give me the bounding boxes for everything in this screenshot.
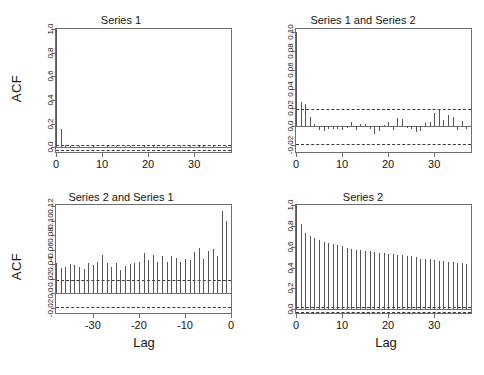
- acf-bar: [208, 251, 209, 294]
- acf-bar: [162, 147, 163, 148]
- acf-bar: [97, 147, 98, 148]
- acf-bar: [199, 146, 200, 147]
- panel-series1-acf: Series 1 ACF 01020300.00.20.40.60.81.0: [0, 0, 242, 188]
- acf-bar: [402, 255, 403, 309]
- x-tick-mark: [139, 314, 140, 318]
- acf-bar: [319, 240, 320, 310]
- x-axis-title-series2-series1: Lag: [133, 336, 155, 349]
- x-tick-label: 30: [428, 159, 440, 170]
- acf-bar: [84, 269, 85, 293]
- acf-bar: [301, 224, 302, 309]
- acf-bar: [374, 126, 375, 134]
- acf-bar: [434, 260, 435, 310]
- confidence-band-lower: [56, 150, 231, 151]
- acf-bar: [439, 261, 440, 310]
- acf-bar: [111, 267, 112, 293]
- confidence-band-upper: [296, 109, 471, 110]
- acf-bar: [74, 147, 75, 148]
- acf-bar: [70, 146, 71, 147]
- acf-bar: [370, 126, 371, 129]
- acf-bar: [176, 147, 177, 148]
- panel-title-series2-series1: Series 2 and Series 1: [0, 191, 242, 203]
- acf-bar: [425, 259, 426, 309]
- acf-bar: [203, 259, 204, 294]
- acf-bar: [420, 259, 421, 309]
- acf-bar: [319, 126, 320, 129]
- acf-bar: [226, 221, 227, 294]
- acf-bar: [208, 147, 209, 148]
- acf-bar: [337, 126, 338, 129]
- acf-bar: [471, 126, 472, 127]
- acf-bar: [102, 255, 103, 293]
- panel-title-series1: Series 1: [0, 14, 242, 26]
- plot-area-series1: [55, 28, 232, 153]
- acf-bar: [388, 122, 389, 126]
- acf-bar: [324, 126, 325, 131]
- plot-area-series2: [295, 204, 472, 314]
- acf-bar: [65, 267, 66, 293]
- acf-bar: [407, 126, 408, 128]
- acf-bar: [393, 254, 394, 309]
- acf-bar: [388, 254, 389, 310]
- acf-bar: [296, 205, 297, 309]
- acf-bar: [93, 146, 94, 147]
- y-tick-label: 0.08: [287, 40, 295, 62]
- acf-bar: [314, 124, 315, 126]
- acf-bar: [411, 126, 412, 128]
- acf-bar: [397, 255, 398, 309]
- y-tick-label: 0.8: [47, 42, 55, 64]
- acf-bar: [116, 146, 117, 147]
- acf-bar: [139, 262, 140, 293]
- x-tick-label: 20: [382, 320, 394, 331]
- x-axis-title-series2: Lag: [375, 336, 397, 349]
- acf-bar: [457, 126, 458, 130]
- acf-bar: [144, 253, 145, 294]
- acf-bar: [190, 146, 191, 147]
- acf-bar: [333, 126, 334, 129]
- acf-bar: [65, 145, 66, 147]
- acf-bar: [310, 117, 311, 126]
- acf-bar: [402, 119, 403, 126]
- acf-bar: [88, 147, 89, 148]
- acf-bar: [328, 243, 329, 310]
- acf-bar: [360, 250, 361, 309]
- acf-bar: [157, 147, 158, 148]
- acf-bar: [222, 147, 223, 148]
- acf-bar: [157, 262, 158, 293]
- y-tick-label: 0.2: [287, 277, 295, 299]
- x-tick-label: 0: [53, 159, 59, 170]
- acf-bar: [384, 253, 385, 309]
- x-tick-mark: [102, 153, 103, 157]
- acf-bar: [310, 236, 311, 309]
- acf-bar: [430, 259, 431, 309]
- panel-title-series2: Series 2: [242, 191, 484, 203]
- acf-bar: [61, 129, 62, 147]
- x-tick-label: 10: [96, 159, 108, 170]
- acf-bar: [88, 263, 89, 294]
- x-tick-mark: [231, 314, 232, 318]
- acf-bar: [167, 262, 168, 293]
- acf-bar: [462, 121, 463, 127]
- acf-bar: [107, 146, 108, 147]
- acf-bar: [194, 147, 195, 148]
- acf-bar: [471, 264, 472, 309]
- acf-bar: [222, 211, 223, 294]
- acf-bar: [180, 146, 181, 147]
- acf-bar: [466, 264, 467, 310]
- acf-bar: [379, 126, 380, 130]
- acf-bar: [305, 233, 306, 309]
- acf-bar: [70, 264, 71, 293]
- zero-baseline: [56, 147, 231, 148]
- acf-bar: [416, 257, 417, 309]
- acf-bar: [231, 147, 232, 148]
- acf-bar: [217, 147, 218, 148]
- acf-bar: [453, 262, 454, 309]
- acf-bar: [125, 266, 126, 293]
- x-tick-mark: [56, 153, 57, 157]
- acf-bar: [443, 261, 444, 309]
- acf-bar: [430, 122, 431, 126]
- acf-bar: [347, 248, 348, 310]
- acf-bar: [144, 146, 145, 147]
- zero-baseline: [296, 126, 471, 127]
- y-tick-label: 0.6: [47, 65, 55, 87]
